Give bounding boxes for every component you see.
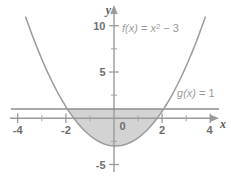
g-label-arg: (x)	[183, 87, 196, 99]
x-tick-label-minus2: -2	[61, 124, 71, 136]
x-tick-label-minus4: -4	[13, 124, 24, 136]
x-tick-label-zero: 0	[119, 120, 125, 132]
coordinate-plane: -4 -2 0 2 4 10 5 -5 y x f(x) = x2 − 3 g(…	[0, 0, 231, 186]
annotation-g-of-x: g(x) = 1	[177, 87, 215, 99]
f-label-equals: =	[138, 22, 151, 34]
x-axis-label: x	[219, 117, 226, 131]
f-label-arg: (x)	[125, 22, 138, 34]
y-axis-label: y	[104, 3, 112, 17]
y-axis-arrow-icon	[110, 5, 117, 14]
g-label-equals: = 1	[196, 87, 215, 99]
y-tick-label-minus5: -5	[96, 159, 106, 171]
annotation-f-of-x: f(x) = x2 − 3	[122, 22, 179, 35]
x-tick-label-2: 2	[159, 124, 165, 136]
f-label-rest: − 3	[160, 22, 179, 34]
x-tick-label-4: 4	[206, 124, 213, 136]
y-tick-label-5: 5	[99, 66, 105, 78]
x-axis-arrow-icon	[210, 115, 219, 122]
y-tick-label-10: 10	[93, 20, 105, 32]
graph-figure: -4 -2 0 2 4 10 5 -5 y x f(x) = x2 − 3 g(…	[0, 0, 231, 186]
